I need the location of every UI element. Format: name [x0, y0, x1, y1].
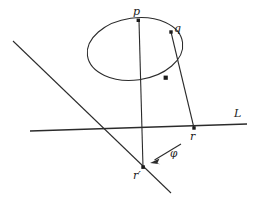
label-r: r — [190, 131, 195, 142]
label-line-L: L — [234, 108, 241, 119]
diagonal-line — [13, 41, 171, 193]
point-q — [169, 30, 172, 33]
point-p — [137, 19, 140, 22]
segment-p-to-r-prime — [139, 21, 143, 167]
label-q: q — [174, 23, 181, 34]
line-L — [30, 124, 247, 131]
label-phi: φ — [170, 148, 177, 159]
label-r-prime: r′ — [133, 170, 141, 181]
label-p: p — [133, 6, 140, 17]
figure-canvas — [0, 0, 256, 207]
ellipse-conic — [83, 12, 187, 87]
geometry-figure: p q L r r′ φ — [0, 0, 256, 207]
point-intersection — [164, 76, 168, 80]
point-r-prime — [141, 165, 145, 169]
